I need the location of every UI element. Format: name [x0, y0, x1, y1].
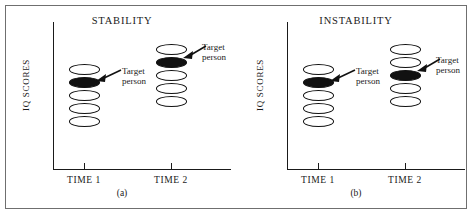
- target-person-label-line2: person: [202, 52, 226, 62]
- y-axis-line-a: [53, 22, 54, 170]
- x-tick-mark-time2-b: [405, 163, 406, 170]
- x-tick-mark-time2-a: [171, 163, 172, 170]
- x-axis-line-a: [53, 169, 231, 170]
- x-tick-label-time1-a: TIME 1: [49, 175, 119, 185]
- y-axis-line-b: [287, 22, 288, 170]
- target-person-arrow-time1-a: [94, 68, 124, 90]
- target-person-label-line1: Target: [356, 66, 379, 76]
- y-axis-label-a: IQ SCORES: [21, 45, 31, 125]
- panel-stability: STABILITY IQ SCORES TIME 1 TIME 2 Target…: [6, 0, 238, 214]
- x-tick-mark-time1-a: [84, 163, 85, 170]
- person-ellipse: [156, 96, 187, 107]
- figure-stability-instability: STABILITY IQ SCORES TIME 1 TIME 2 Target…: [0, 0, 472, 214]
- panel-title-instability: INSTABILITY: [240, 15, 472, 26]
- panel-instability: INSTABILITY IQ SCORES TIME 1 TIME 2 Targ…: [240, 0, 472, 214]
- panel-caption-b: (b): [240, 188, 472, 198]
- target-person-arrow-time1-b: [328, 68, 358, 90]
- x-axis-line-b: [287, 169, 465, 170]
- person-ellipse: [156, 83, 187, 94]
- x-tick-label-time2-a: TIME 2: [136, 175, 206, 185]
- target-person-label-line2: person: [122, 76, 146, 86]
- target-person-label-time1-b: Target person: [356, 66, 380, 86]
- target-person-label-time2-b: Target person: [436, 55, 460, 75]
- target-person-label-line1: Target: [436, 55, 459, 65]
- person-ellipse: [390, 96, 421, 107]
- person-ellipse: [69, 103, 100, 114]
- x-tick-mark-time1-b: [318, 163, 319, 170]
- person-ellipse: [303, 90, 334, 101]
- target-person-label-line1: Target: [122, 66, 145, 76]
- person-ellipse: [303, 116, 334, 127]
- target-person-label-time2-a: Target person: [202, 42, 226, 62]
- person-ellipse: [390, 44, 421, 55]
- y-axis-label-b: IQ SCORES: [255, 45, 265, 125]
- person-ellipse: [156, 70, 187, 81]
- target-person-label-line2: person: [436, 65, 460, 75]
- person-ellipse: [69, 116, 100, 127]
- x-tick-label-time2-b: TIME 2: [370, 175, 440, 185]
- target-person-label-line1: Target: [202, 42, 225, 52]
- panel-caption-a: (a): [6, 188, 238, 198]
- person-ellipse: [303, 103, 334, 114]
- person-ellipse: [390, 83, 421, 94]
- target-person-label-time1-a: Target person: [122, 66, 146, 86]
- panel-title-stability: STABILITY: [6, 15, 238, 26]
- x-tick-label-time1-b: TIME 1: [283, 175, 353, 185]
- person-ellipse: [69, 90, 100, 101]
- target-person-label-line2: person: [356, 76, 380, 86]
